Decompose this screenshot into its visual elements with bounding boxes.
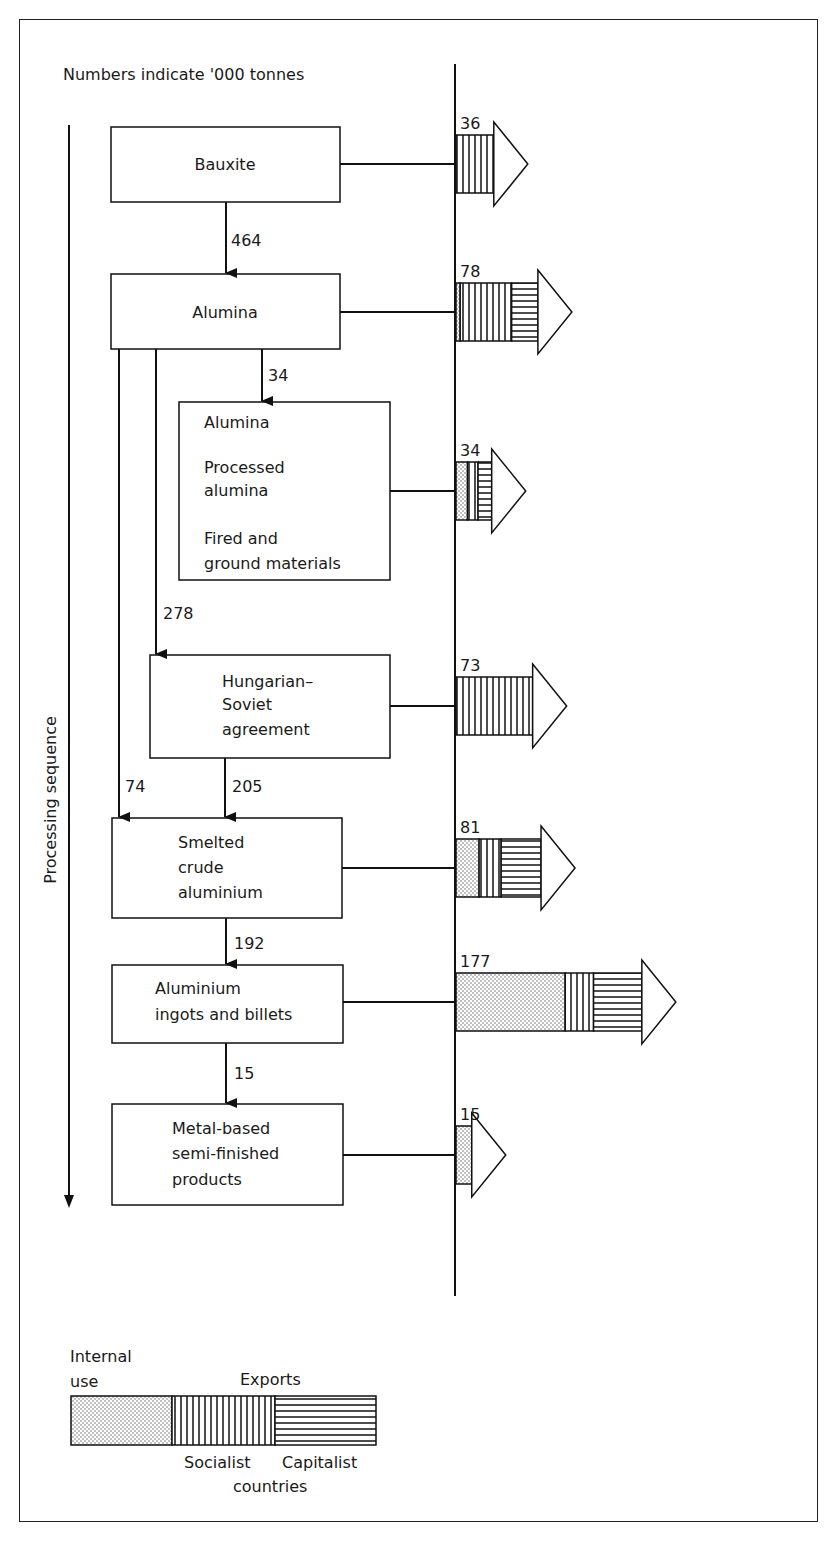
axis-arrowhead-icon: [64, 1195, 74, 1208]
stage-label: alumina: [204, 481, 268, 500]
flow-value: 464: [231, 231, 262, 250]
flow-hungarian-smelted: 205: [225, 758, 263, 817]
segment-capitalist: [594, 973, 642, 1031]
stage-label: Aluminium: [155, 979, 241, 998]
stage-label: semi-finished: [172, 1144, 279, 1163]
export-total: 177: [460, 952, 491, 971]
flow-value: 15: [234, 1064, 254, 1083]
stage-label: Bauxite: [195, 155, 256, 174]
stage-label: Alumina: [204, 413, 270, 432]
arrowhead-icon: [541, 826, 575, 910]
export-total: 73: [460, 656, 480, 675]
export-arrow-hungarian-soviet: 73: [456, 656, 567, 748]
arrowhead-icon: [472, 1113, 506, 1197]
arrowhead-icon: [492, 449, 526, 533]
stage-label: ingots and billets: [155, 1005, 292, 1024]
flow-value: 34: [268, 366, 288, 385]
processing-sequence-axis: Processing sequence: [41, 125, 74, 1208]
stage-label: Hungarian–: [222, 672, 313, 691]
axis-label: Processing sequence: [41, 716, 60, 884]
flow-smelted-ingots: 192: [226, 918, 265, 964]
export-arrow-bauxite: 36: [456, 114, 528, 206]
flow-value: 74: [125, 777, 145, 796]
legend-capitalist-label: Capitalist: [282, 1453, 357, 1472]
flow-value: 278: [163, 604, 194, 623]
stage-label: aluminium: [178, 883, 263, 902]
stage-alumina-products: Alumina Processed alumina Fired and grou…: [179, 402, 455, 580]
stage-smelted: Smelted crude aluminium: [112, 818, 455, 918]
export-total: 81: [460, 818, 480, 837]
segment-socialist: [456, 677, 533, 735]
arrowhead-icon: [494, 122, 528, 206]
legend-swatch-internal: [71, 1396, 172, 1445]
segment-capitalist: [478, 462, 492, 520]
export-total: 34: [460, 441, 480, 460]
export-total: 36: [460, 114, 480, 133]
stage-hungarian-soviet: Hungarian– Soviet agreement: [150, 655, 455, 758]
processing-diagram: Numbers indicate '000 tonnes Processing …: [0, 0, 837, 1547]
export-arrows: 367834738117715: [456, 114, 676, 1197]
segment-internal: [456, 462, 468, 520]
flow-ingots-semi-finished: 15: [226, 1043, 254, 1103]
arrowhead-icon: [538, 270, 572, 354]
export-total: 15: [460, 1105, 480, 1124]
segment-capitalist: [512, 283, 538, 341]
legend-socialist-label: Socialist: [184, 1453, 251, 1472]
export-arrow-alumina: 78: [456, 262, 572, 354]
stage-semi-finished: Metal-based semi-finished products: [112, 1104, 455, 1205]
legend-swatch-socialist: [172, 1396, 275, 1445]
arrowhead-icon: [533, 664, 567, 748]
segment-socialist: [456, 135, 494, 193]
flow-value: 192: [234, 934, 265, 953]
stage-label: Metal-based: [172, 1119, 270, 1138]
stage-alumina: Alumina: [111, 274, 455, 349]
export-arrow-smelted: 81: [456, 818, 575, 910]
legend-exports-label: Exports: [240, 1370, 301, 1389]
stage-label: products: [172, 1170, 242, 1189]
units-note: Numbers indicate '000 tonnes: [63, 65, 304, 84]
segment-internal: [456, 839, 479, 897]
stage-label: ground materials: [204, 554, 341, 573]
flow-alumina-smelted: 74: [119, 349, 145, 817]
segment-capitalist: [501, 839, 541, 897]
stage-bauxite: Bauxite: [111, 127, 455, 202]
segment-internal: [456, 973, 565, 1031]
arrowhead-icon: [642, 960, 676, 1044]
segment-socialist: [468, 462, 479, 520]
stage-label: agreement: [222, 720, 310, 739]
segment-internal: [456, 1126, 472, 1184]
stage-label: crude: [178, 858, 224, 877]
segment-socialist: [460, 283, 511, 341]
stage-label: Smelted: [178, 833, 244, 852]
stage-label: Alumina: [192, 303, 258, 322]
segment-socialist: [565, 973, 593, 1031]
stage-label: Fired and: [204, 529, 278, 548]
legend: Internal use Exports Socialist Capitalis…: [70, 1347, 376, 1496]
legend-countries-label: countries: [233, 1477, 307, 1496]
legend-swatch-capitalist: [275, 1396, 376, 1445]
segment-socialist: [479, 839, 501, 897]
stage-label: Soviet: [222, 695, 272, 714]
export-arrow-ingots: 177: [456, 952, 676, 1044]
export-arrow-alumina-products: 34: [456, 441, 526, 533]
flow-bauxite-alumina: 464: [226, 202, 262, 273]
export-total: 78: [460, 262, 480, 281]
flow-alumina-products: 34: [262, 349, 288, 401]
legend-internal-label: use: [70, 1372, 98, 1391]
stage-label: Processed: [204, 458, 285, 477]
export-arrow-semi-finished: 15: [456, 1105, 506, 1197]
legend-internal-label: Internal: [70, 1347, 132, 1366]
stage-ingots: Aluminium ingots and billets: [112, 965, 455, 1043]
flow-value: 205: [232, 777, 263, 796]
